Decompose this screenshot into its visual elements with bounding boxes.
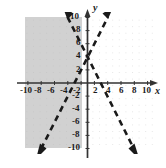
x-tick-label: 4: [106, 86, 111, 95]
y-tick-label: -6: [72, 117, 80, 126]
coordinate-plane-svg: [0, 0, 166, 168]
y-tick-label: -2: [72, 91, 80, 100]
y-tick-label: 2: [76, 65, 81, 74]
x-tick-label: 10: [142, 86, 151, 95]
x-tick-label: -6: [47, 86, 55, 95]
y-tick-label: 6: [76, 38, 81, 47]
y-tick-label: -8: [72, 130, 80, 139]
x-axis-name-label: x: [155, 85, 160, 96]
graph-figure: -10 -8 -6 -4 -2 2 4 6 8 10 10 8 6 4 2 -2…: [0, 0, 166, 168]
x-tick-label: 8: [132, 86, 137, 95]
y-tick-label: -10: [68, 143, 80, 152]
x-tick-label: -10: [20, 86, 32, 95]
y-tick-label: 4: [76, 51, 81, 60]
x-tick-label: 6: [119, 86, 124, 95]
y-tick-label: 8: [76, 25, 81, 34]
y-axis-name-label: y: [93, 2, 97, 13]
x-tick-label: -8: [34, 86, 42, 95]
y-tick-label: 10: [70, 12, 79, 21]
x-tick-label: 2: [93, 86, 98, 95]
y-tick-label: -4: [72, 104, 80, 113]
x-tick-label: -4: [60, 86, 68, 95]
